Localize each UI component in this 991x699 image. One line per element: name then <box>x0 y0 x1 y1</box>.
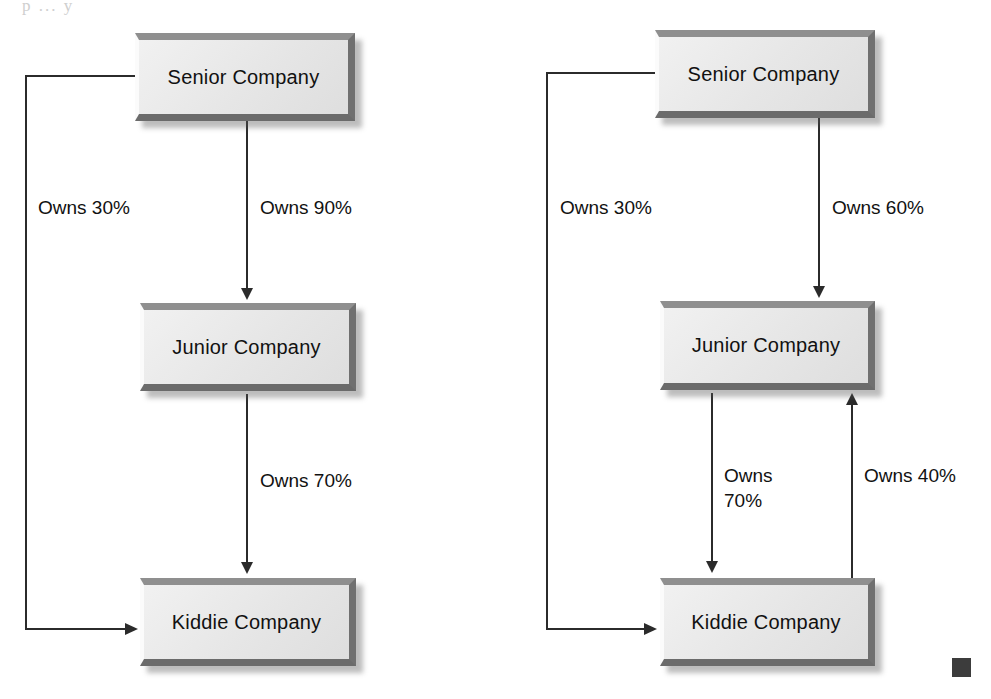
edge-junior-kiddie-arrowhead <box>706 561 718 573</box>
edge-senior-kiddie-bottom-segment <box>546 628 644 630</box>
node-label: Kiddie Company <box>691 611 841 634</box>
edge-senior-junior-line <box>818 118 820 286</box>
edge-senior-kiddie-bottom-segment <box>25 628 125 630</box>
edge-label-senior-kiddie: Owns 30% <box>560 195 652 220</box>
edge-senior-junior-arrowhead <box>813 286 825 298</box>
node-label: Kiddie Company <box>172 611 322 634</box>
node-senior-company[interactable]: Senior Company <box>135 33 355 121</box>
edge-senior-kiddie-arrowhead <box>125 623 138 635</box>
edge-junior-kiddie-arrowhead <box>241 562 253 574</box>
end-of-section-marker <box>952 658 971 677</box>
page-bleed-text: p ... y <box>22 0 74 16</box>
edge-senior-junior-line <box>246 120 248 288</box>
node-kiddie-company[interactable]: Kiddie Company <box>140 578 356 666</box>
edge-label-senior-junior: Owns 60% <box>832 195 924 220</box>
node-junior-company[interactable]: Junior Company <box>660 301 875 390</box>
node-kiddie-company[interactable]: Kiddie Company <box>660 578 875 666</box>
edge-senior-kiddie-arrowhead <box>644 623 657 635</box>
edge-label-senior-kiddie: Owns 30% <box>38 195 130 220</box>
node-label: Senior Company <box>168 66 320 89</box>
node-label: Junior Company <box>172 336 320 359</box>
node-senior-company[interactable]: Senior Company <box>655 30 875 118</box>
edge-senior-junior-arrowhead <box>241 288 253 300</box>
edge-senior-kiddie-vertical-segment <box>546 72 548 628</box>
edge-junior-kiddie-line <box>711 393 713 561</box>
edge-senior-kiddie-top-segment <box>25 75 137 77</box>
edge-senior-kiddie-top-segment <box>546 72 658 74</box>
edge-label-senior-junior: Owns 90% <box>260 195 352 220</box>
edge-label-junior-kiddie: Owns 70% <box>724 463 773 513</box>
edge-senior-kiddie-vertical-segment <box>25 75 27 629</box>
edge-kiddie-junior-arrowhead <box>846 393 858 405</box>
node-label: Junior Company <box>692 334 840 357</box>
edge-label-kiddie-junior: Owns 40% <box>864 463 956 488</box>
node-label: Senior Company <box>688 63 840 86</box>
node-junior-company[interactable]: Junior Company <box>140 303 356 391</box>
diagram-canvas: p ... y Owns 30% Owns 90% Owns 70% Senio… <box>0 0 991 699</box>
edge-label-junior-kiddie: Owns 70% <box>260 468 352 493</box>
edge-kiddie-junior-line <box>851 405 853 580</box>
edge-junior-kiddie-line <box>246 394 248 562</box>
